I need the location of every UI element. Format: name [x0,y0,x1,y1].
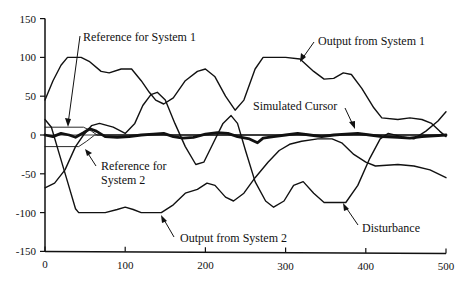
annotation-output-system-2: Output from System 2 [180,231,287,245]
y-tick-label: -50 [21,168,36,180]
annotation-reference-system-1: Reference for System 1 [83,30,196,44]
annotation-reference-system-2-line2: System 2 [101,173,145,187]
annotation-disturbance: Disturbance [362,221,420,235]
y-tick-label: -150 [16,245,37,257]
x-tick-label: 0 [42,258,48,270]
y-tick-label: 100 [20,51,37,63]
x-tick-label: 100 [117,259,134,271]
series-reference-for-system-1 [45,127,446,135]
x-tick-label: 400 [358,260,375,272]
x-tick-label: 300 [277,260,294,272]
chart-canvas: 150100500-50-100-1500100200300400500 Ref… [0,0,467,293]
x-tick-label: 500 [438,260,455,272]
arrowhead-icon [85,149,92,156]
y-tick-label: 0 [31,129,37,141]
annotation-reference-system-2-line1: Reference for [101,159,167,173]
y-tick-label: -100 [16,207,37,219]
series-layer [45,57,446,212]
y-tick-label: 50 [25,90,37,102]
arrow-reference-system-1 [68,36,80,124]
y-tick-label: 150 [20,13,37,25]
annotation-output-system-1: Output from System 1 [318,34,425,48]
arrowhead-icon [349,121,355,129]
annotation-simulated-cursor: Simulated Cursor [253,99,337,113]
arrowhead-icon [65,118,71,127]
x-tick-label: 200 [197,259,214,271]
arrowhead-icon [161,215,167,223]
series-simulated-cursor [45,129,446,143]
x-axis [45,251,446,253]
